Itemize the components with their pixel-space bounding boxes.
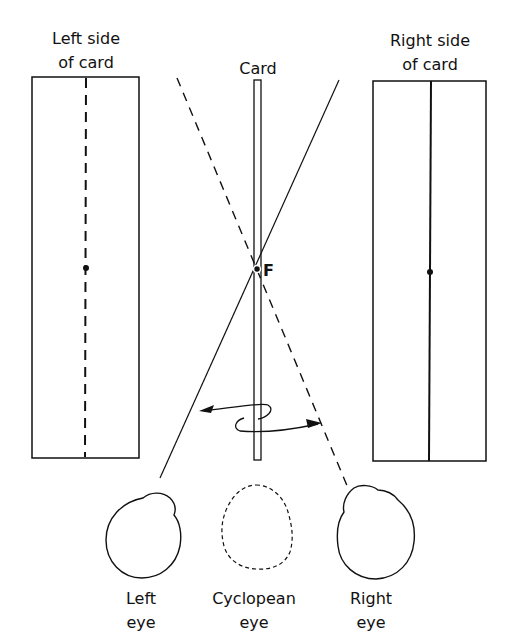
- fixation-dot: [254, 266, 261, 273]
- left-side-label-line2: of card: [58, 53, 114, 72]
- right-eye-label-line2: eye: [356, 613, 385, 632]
- right-side-label-line1: Right side: [390, 31, 470, 50]
- right-eye-outline: [337, 486, 414, 579]
- left-eye-label-line2: eye: [126, 613, 155, 632]
- stereo-card-diagram: Left side of card Right side of card Car…: [0, 0, 516, 644]
- right-side-fixation-dot: [427, 269, 433, 275]
- right-side-label-line2: of card: [402, 55, 458, 74]
- left-eye: Left eye: [106, 493, 181, 632]
- left-side-label-line1: Left side: [52, 29, 120, 48]
- fixation-label: F: [263, 261, 274, 280]
- rotation-arrowhead-left: [199, 405, 214, 413]
- right-eye-line-of-sight: [177, 78, 348, 488]
- card-label: Card: [239, 59, 276, 78]
- right-eye: Right eye: [337, 486, 414, 632]
- cyclopean-eye-label-line1: Cyclopean: [212, 589, 296, 608]
- left-eye-label-line1: Left: [126, 589, 156, 608]
- left-eye-line-of-sight: [160, 80, 339, 478]
- cyclopean-eye-label-line2: eye: [239, 613, 268, 632]
- cyclopean-eye: Cyclopean eye: [212, 485, 296, 632]
- left-eye-outline: [106, 493, 181, 578]
- left-side-panel: Left side of card: [32, 29, 139, 458]
- right-side-panel: Right side of card: [373, 31, 486, 461]
- left-side-fixation-dot: [83, 265, 89, 271]
- cyclopean-eye-outline: [222, 485, 292, 569]
- right-eye-label-line1: Right: [350, 589, 392, 608]
